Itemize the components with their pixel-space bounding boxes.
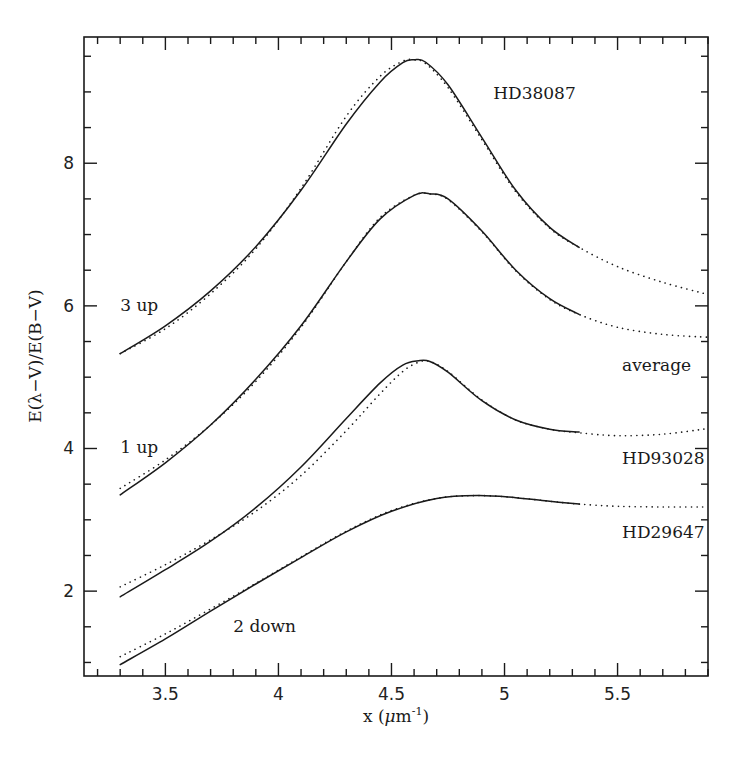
curve-label: average xyxy=(622,355,691,375)
x-axis-ticks xyxy=(98,37,708,676)
observed-curve-solid xyxy=(120,496,579,665)
x-tick-label: 3.5 xyxy=(152,684,179,704)
y-axis-title: E(λ−V)/E(B−V) xyxy=(25,289,45,422)
fit-curve-dotted xyxy=(120,496,708,657)
curve-label: HD38087 xyxy=(493,83,576,103)
curve-label: 1 up xyxy=(120,437,158,457)
curve-label: HD29647 xyxy=(622,522,705,542)
y-tick-label: 8 xyxy=(63,153,74,173)
plot-frame xyxy=(84,37,708,676)
observed-curve-solid xyxy=(120,59,579,353)
y-axis-ticks xyxy=(84,56,708,662)
x-tick-label: 4 xyxy=(273,684,284,704)
y-axis-tick-labels: 2468 xyxy=(63,153,74,601)
observed-curve-solid xyxy=(120,360,579,597)
axes-box xyxy=(84,37,708,676)
curve-label: HD93028 xyxy=(622,448,705,468)
curve-label: 3 up xyxy=(120,295,158,315)
x-tick-label: 5.5 xyxy=(604,684,631,704)
observed-curve-solid xyxy=(120,193,579,495)
x-tick-label: 5 xyxy=(499,684,510,704)
curve-label: 2 down xyxy=(233,616,296,636)
y-tick-label: 2 xyxy=(63,581,74,601)
y-tick-label: 4 xyxy=(63,438,74,458)
series-layer xyxy=(120,59,708,664)
x-tick-label: 4.5 xyxy=(378,684,405,704)
y-tick-label: 6 xyxy=(63,296,74,316)
x-axis-tick-labels: 3.544.555.5 xyxy=(152,684,631,704)
fit-curve-dotted xyxy=(120,361,708,587)
curve-annotations: HD380873 upaverage1 upHD93028HD296472 do… xyxy=(120,83,704,636)
x-axis-title: x (μm-1) xyxy=(363,705,429,726)
extinction-curve-chart: 3.544.555.5 2468 HD380873 upaverage1 upH… xyxy=(0,0,746,759)
fit-curve-dotted xyxy=(120,193,708,489)
fit-curve-dotted xyxy=(120,59,708,353)
